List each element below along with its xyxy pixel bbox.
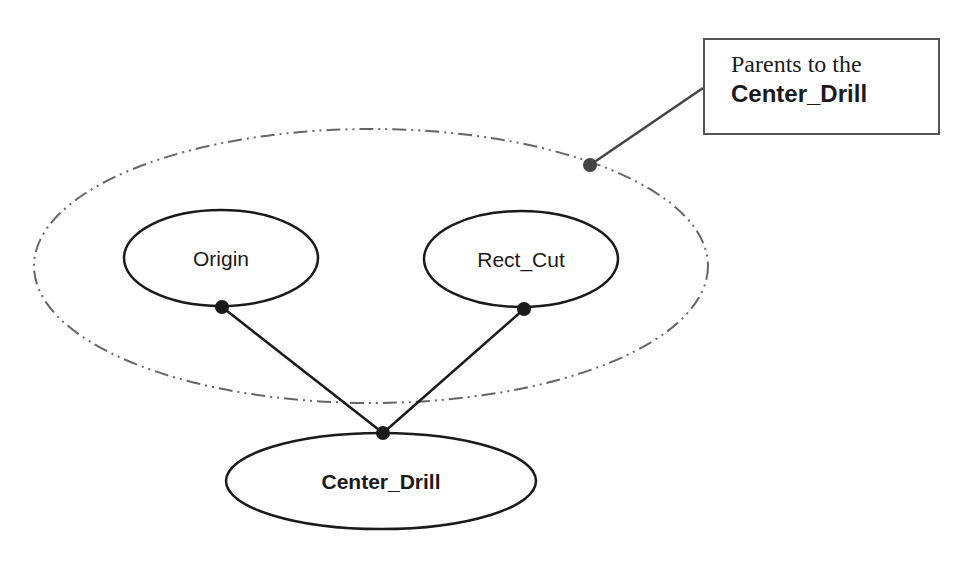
node-center-drill[interactable]: Center_Drill: [226, 433, 536, 529]
edge-origin-to-center-drill: [222, 307, 383, 433]
callout-leader-line: [590, 88, 703, 165]
callout-text-line2: Center_Drill: [731, 79, 938, 109]
connector-dot-center-drill: [376, 426, 390, 440]
node-rect-cut[interactable]: Rect_Cut: [424, 211, 618, 307]
callout-box: Parents to the Center_Drill: [703, 38, 940, 135]
connector-dot-rect-cut: [517, 302, 531, 316]
node-origin-label: Origin: [193, 247, 249, 270]
connector-dot-origin: [215, 300, 229, 314]
edge-rect-cut-to-center-drill: [383, 309, 524, 433]
node-center-drill-label: Center_Drill: [321, 470, 440, 493]
node-rect-cut-label: Rect_Cut: [477, 248, 565, 272]
node-origin[interactable]: Origin: [124, 210, 318, 306]
callout-text-line1: Parents to the: [731, 50, 938, 79]
callout-anchor-dot: [583, 158, 597, 172]
